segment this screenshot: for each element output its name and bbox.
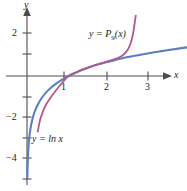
x-axis-arrowhead <box>163 72 172 80</box>
x-tick-label-3: 3 <box>145 82 150 92</box>
y-tick-label-neg2: −2 <box>6 112 17 122</box>
y-tick-label-2: 2 <box>12 28 17 38</box>
poly-label-prefix: y = P <box>89 28 111 39</box>
x-tick-label-2: 2 <box>104 82 109 92</box>
poly-label-suffix: (x) <box>115 28 126 39</box>
x-tick-label-1: 1 <box>61 82 66 92</box>
curve-label-ln-x: y = ln x <box>32 134 63 144</box>
ln-label-text: y = ln x <box>32 133 63 144</box>
curve-label-taylor-p9: y = P9(x) <box>89 29 126 42</box>
graph-figure: y x 2 −2 −4 1 2 3 y = P9(x) y = ln x <box>0 0 187 191</box>
y-tick-label-neg4: −4 <box>6 153 17 163</box>
curve-ln-x-stroke <box>27 47 186 178</box>
x-axis-label: x <box>174 70 178 80</box>
y-axis-label: y <box>24 0 28 10</box>
